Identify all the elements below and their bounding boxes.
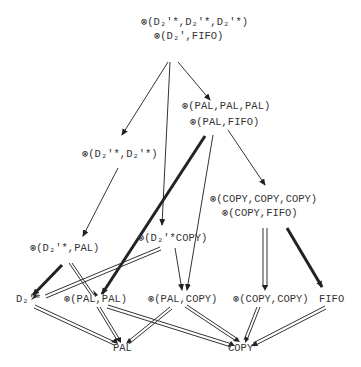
edge-d2d2-d2pal bbox=[83, 168, 118, 236]
edge-top-pal3 bbox=[178, 62, 210, 100]
edge-top-d2d2 bbox=[122, 62, 168, 135]
node-pal3-line1: ⊗(PAL,PAL,PAL) bbox=[182, 100, 270, 112]
node-fifo: FIFO bbox=[319, 293, 344, 305]
lattice-diagram: ⊗(D₂'*,D₂'*,D₂'*) ⊗(D₂',FIFO) ⊗(D₂'*,D₂'… bbox=[0, 0, 361, 367]
node-d2star: D₂'* bbox=[16, 293, 41, 305]
node-copy3-line1: ⊗(COPY,COPY,COPY) bbox=[210, 193, 317, 205]
node-top-line1: ⊗(D₂'*,D₂'*,D₂'*) bbox=[141, 16, 248, 28]
node-d2star-d2star: ⊗(D₂'*,D₂'*) bbox=[82, 148, 158, 160]
node-copy3-line2: ⊗(COPY,FIFO) bbox=[222, 207, 298, 219]
edge-d2pal-d2 bbox=[33, 265, 62, 295]
edge-pal3-copy3 bbox=[228, 130, 265, 185]
node-pal3-line2: ⊗(PAL,FIFO) bbox=[190, 116, 259, 128]
node-copy: COPY bbox=[228, 342, 253, 354]
edge-d2copy-palcopy bbox=[175, 248, 182, 290]
node-pal-copy: ⊗(PAL,COPY) bbox=[148, 293, 217, 305]
node-pal-pal: ⊗(PAL,PAL) bbox=[64, 293, 127, 305]
node-d2star-copy: ⊗(D₂'*COPY) bbox=[138, 232, 207, 244]
edges-layer bbox=[0, 0, 361, 367]
node-copy-copy: ⊗(COPY,COPY) bbox=[233, 293, 309, 305]
node-top-line2: ⊗(D₂',FIFO) bbox=[154, 30, 223, 42]
node-d2star-pal: ⊗(D₂'*,PAL) bbox=[30, 242, 99, 254]
edge-copy3-fifo bbox=[287, 228, 322, 287]
node-pal: PAL bbox=[113, 342, 132, 354]
